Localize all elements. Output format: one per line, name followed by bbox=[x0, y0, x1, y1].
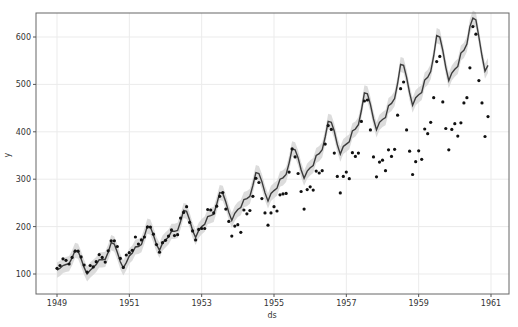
data-point bbox=[390, 155, 393, 158]
data-point bbox=[101, 256, 104, 259]
data-point bbox=[143, 235, 146, 238]
forecast-chart: 1949195119531955195719591961 10020030040… bbox=[0, 0, 518, 327]
data-point bbox=[113, 239, 116, 242]
y-tick-label: 200 bbox=[16, 223, 31, 232]
data-point bbox=[137, 243, 140, 246]
y-axis-label: y bbox=[3, 152, 12, 157]
data-point bbox=[348, 177, 351, 180]
data-point bbox=[104, 261, 107, 264]
data-point bbox=[155, 243, 158, 246]
data-point bbox=[170, 228, 173, 231]
data-point bbox=[167, 235, 170, 238]
data-point bbox=[134, 235, 137, 238]
data-point bbox=[384, 169, 387, 172]
data-point bbox=[206, 208, 209, 211]
data-point bbox=[402, 80, 405, 83]
data-point bbox=[471, 25, 474, 28]
data-point bbox=[263, 211, 266, 214]
data-point bbox=[95, 260, 98, 263]
data-point bbox=[297, 172, 300, 175]
data-point bbox=[378, 161, 381, 164]
data-point bbox=[372, 155, 375, 158]
data-point bbox=[64, 259, 67, 262]
data-point bbox=[74, 250, 77, 253]
data-point bbox=[89, 264, 92, 267]
data-point bbox=[333, 152, 336, 155]
data-point bbox=[227, 220, 230, 223]
data-point bbox=[149, 226, 152, 229]
data-point bbox=[447, 148, 450, 151]
data-point bbox=[251, 195, 254, 198]
data-point bbox=[444, 127, 447, 130]
data-point bbox=[429, 121, 432, 124]
data-point bbox=[278, 193, 281, 196]
data-point bbox=[351, 151, 354, 154]
data-point bbox=[86, 271, 89, 274]
data-point bbox=[161, 241, 164, 244]
data-point bbox=[459, 121, 462, 124]
data-point bbox=[414, 160, 417, 163]
data-point bbox=[399, 87, 402, 90]
data-point bbox=[336, 175, 339, 178]
data-point bbox=[318, 171, 321, 174]
data-point bbox=[363, 99, 366, 102]
data-point bbox=[354, 155, 357, 158]
x-tick-label: 1959 bbox=[408, 299, 428, 308]
data-point bbox=[209, 208, 212, 211]
y-tick-label: 600 bbox=[16, 33, 31, 42]
data-point bbox=[215, 205, 218, 208]
data-point bbox=[462, 101, 465, 104]
data-point bbox=[185, 205, 188, 208]
data-point bbox=[453, 122, 456, 125]
data-point bbox=[188, 221, 191, 224]
data-point bbox=[80, 255, 83, 258]
data-point bbox=[477, 79, 480, 82]
data-point bbox=[272, 205, 275, 208]
data-point bbox=[387, 148, 390, 151]
data-point bbox=[83, 263, 86, 266]
data-point bbox=[417, 149, 420, 152]
data-point bbox=[176, 233, 179, 236]
data-point bbox=[233, 225, 236, 228]
data-point bbox=[77, 250, 80, 253]
data-point bbox=[98, 253, 101, 256]
y-tick-label: 500 bbox=[16, 80, 31, 89]
data-point bbox=[342, 175, 345, 178]
data-point bbox=[266, 224, 269, 227]
x-tick-label: 1949 bbox=[47, 299, 67, 308]
data-point bbox=[55, 267, 58, 270]
data-point bbox=[92, 265, 95, 268]
data-point bbox=[200, 227, 203, 230]
x-tick-label: 1961 bbox=[481, 299, 501, 308]
y-axis-ticks: 100200300400500600 bbox=[16, 33, 36, 279]
data-point bbox=[218, 195, 221, 198]
data-point bbox=[275, 209, 278, 212]
data-point bbox=[179, 217, 182, 220]
data-point bbox=[288, 171, 291, 174]
data-point bbox=[483, 135, 486, 138]
data-point bbox=[357, 152, 360, 155]
data-point bbox=[486, 115, 489, 118]
data-point bbox=[236, 223, 239, 226]
data-point bbox=[125, 253, 128, 256]
data-point bbox=[116, 245, 119, 248]
data-point bbox=[411, 173, 414, 176]
x-tick-label: 1951 bbox=[119, 299, 139, 308]
data-point bbox=[68, 262, 71, 265]
data-point bbox=[345, 171, 348, 174]
data-point bbox=[122, 266, 125, 269]
data-point bbox=[315, 170, 318, 173]
data-point bbox=[248, 209, 251, 212]
data-point bbox=[309, 185, 312, 188]
data-point bbox=[393, 148, 396, 151]
data-point bbox=[239, 231, 242, 234]
data-point bbox=[291, 147, 294, 150]
data-point bbox=[396, 114, 399, 117]
data-point bbox=[303, 208, 306, 211]
data-point bbox=[254, 177, 257, 180]
data-point bbox=[339, 191, 342, 194]
x-tick-label: 1953 bbox=[191, 299, 211, 308]
data-point bbox=[366, 98, 369, 101]
data-point bbox=[441, 100, 444, 103]
x-axis-label: ds bbox=[267, 311, 276, 320]
